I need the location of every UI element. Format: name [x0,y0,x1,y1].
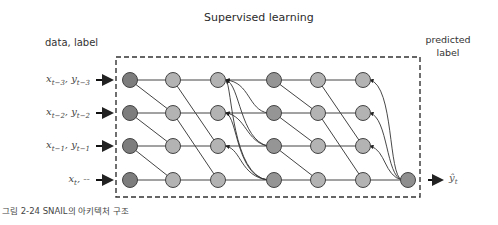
tc-node [356,139,371,154]
tc-node [311,139,326,154]
tc-node [211,173,226,188]
attention-node [267,73,282,88]
tc-node [311,73,326,88]
diagonal-edges-block2 [274,80,363,180]
attention-node [267,173,282,188]
output-node [401,173,416,188]
input-node [123,139,138,154]
tc-node [166,73,181,88]
attention-edges-block1 [226,80,268,180]
diagonal-edges-block1 [130,80,218,180]
tc-node [166,106,181,121]
tc-node [311,173,326,188]
attention-node [267,139,282,154]
attention-node [267,106,282,121]
input-node [123,73,138,88]
input-node [123,173,138,188]
input-arrows [96,80,112,180]
tc-node [356,106,371,121]
row-edges [130,80,408,180]
tc-node [211,106,226,121]
tc-node [211,73,226,88]
snail-architecture-diagram [0,0,498,225]
tc-node [211,139,226,154]
tc-node [311,106,326,121]
tc-node [356,73,371,88]
tc-node [166,139,181,154]
input-node [123,106,138,121]
attention-edges-block2 [370,80,402,180]
tc-node [356,173,371,188]
tc-node [166,173,181,188]
nodes [123,73,416,188]
